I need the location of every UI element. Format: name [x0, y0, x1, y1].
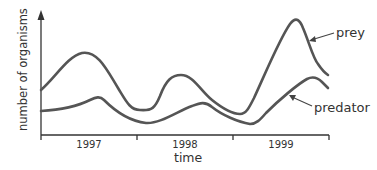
x-axis-label: time: [174, 150, 202, 165]
prey-label: prey: [336, 25, 365, 40]
x-tick-label-1999: 1999: [251, 139, 311, 150]
x-tick-label-1997: 1997: [59, 139, 119, 150]
predator-pointer: [292, 97, 312, 106]
prey-line: [41, 20, 328, 114]
predator-line: [41, 78, 328, 124]
prey-arrowhead-icon: [309, 36, 316, 42]
y-axis-label: number of organisms: [16, 8, 30, 131]
x-tick-label-1998: 1998: [155, 139, 215, 150]
predator-label: predator: [314, 100, 370, 115]
y-axis-arrow-icon: [38, 10, 45, 20]
